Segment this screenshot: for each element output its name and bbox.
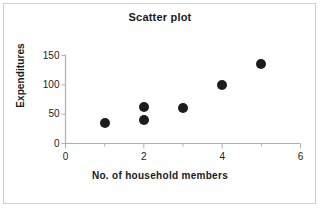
x-axis-label: No. of household members [0,170,320,181]
data-point [256,59,266,69]
x-tick-label: 4 [210,151,234,162]
y-tick-label: 100 [32,79,60,90]
y-tick-label: 0 [32,138,60,149]
scatter-plot-figure: Scatter plot Expenditures No. of househo… [0,0,320,208]
data-point [139,115,149,125]
data-point [100,118,110,128]
x-tick-label: 6 [289,151,313,162]
y-tick-label: 50 [32,108,60,119]
data-point [217,80,227,90]
y-tick-label: 150 [32,50,60,61]
y-axis-label: Expenditures [15,26,26,126]
data-point [139,102,149,112]
x-tick-label: 0 [54,151,78,162]
chart-title: Scatter plot [0,11,320,23]
x-tick-label: 2 [132,151,156,162]
